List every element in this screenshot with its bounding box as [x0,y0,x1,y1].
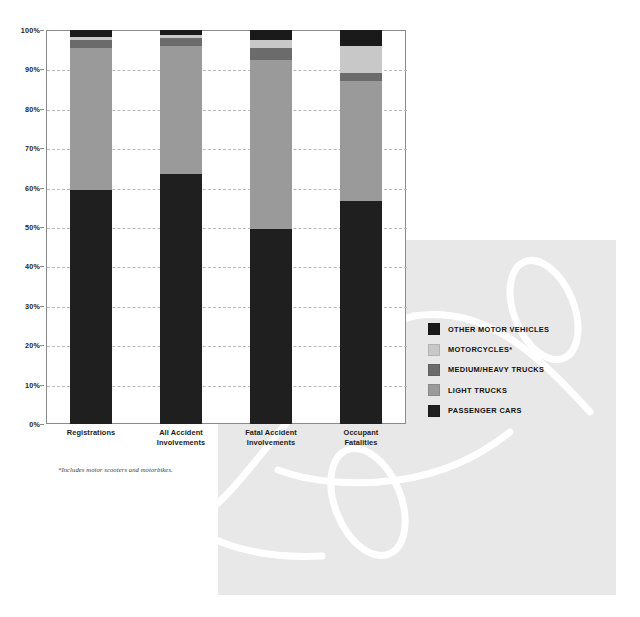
y-axis-tick-mark [40,69,44,70]
bar-group [46,30,406,424]
legend: OTHER MOTOR VEHICLESMOTORCYCLES*MEDIUM/H… [428,319,608,421]
bar-occupant-fatalities [340,30,382,424]
y-axis-tick-mark [40,188,44,189]
y-axis-tick-mark [40,148,44,149]
y-axis-tick-mark [40,227,44,228]
legend-swatch-icon [428,405,440,417]
legend-item-label: OTHER MOTOR VEHICLES [448,325,549,334]
bar-segment [250,48,292,60]
y-axis-tick-label: 100% [0,26,40,35]
bar-segment [340,30,382,46]
y-axis-tick-mark [40,385,44,386]
bar-fatal-accident-involvements [250,30,292,424]
legend-swatch-icon [428,384,440,396]
chart [46,30,406,424]
bar-segment [70,30,112,37]
bar-all-accident-involvements [160,30,202,424]
legend-item-label: PASSENGER CARS [448,406,522,415]
x-axis-labels: RegistrationsAll AccidentInvolvementsFat… [46,428,406,460]
bar-segment [340,201,382,424]
legend-item[interactable]: MOTORCYCLES* [428,339,608,359]
x-axis-label-line: Occupant [306,428,416,438]
legend-item-label: MOTORCYCLES* [448,345,512,354]
bar-segment [70,40,112,48]
bar-segment [250,60,292,229]
y-axis-tick-label: 0% [0,420,40,429]
y-axis-tick-label: 10% [0,380,40,389]
bar-segment [250,40,292,48]
bar-segment [250,30,292,40]
bar-segment [340,73,382,81]
x-axis-label: OccupantFatalities [306,428,416,447]
y-axis-tick-label: 40% [0,262,40,271]
y-axis-tick-mark [40,30,44,31]
bar-segment [160,174,202,424]
bar-segment [250,229,292,424]
y-axis-tick-mark [40,109,44,110]
bar-segment [340,46,382,74]
legend-item[interactable]: PASSENGER CARS [428,401,608,421]
legend-swatch-icon [428,323,440,335]
y-axis-tick-label: 60% [0,183,40,192]
bar-segment [160,38,202,46]
y-axis-tick-mark [40,424,44,425]
bar-segment [160,46,202,174]
legend-swatch-icon [428,364,440,376]
y-axis-tick-label: 30% [0,301,40,310]
legend-item-label: MEDIUM/HEAVY TRUCKS [448,365,544,374]
legend-item-label: LIGHT TRUCKS [448,386,507,395]
y-axis-tick-label: 20% [0,341,40,350]
x-axis-label-line: Fatalities [306,438,416,448]
y-axis: 0%10%20%30%40%50%60%70%80%90%100% [0,24,44,428]
footnote: *Includes motor scooters and motorbikes. [58,466,173,473]
legend-item[interactable]: MEDIUM/HEAVY TRUCKS [428,360,608,380]
bar-segment [70,190,112,424]
bar-segment [340,81,382,201]
legend-swatch-icon [428,344,440,356]
y-axis-tick-label: 70% [0,144,40,153]
y-axis-tick-label: 90% [0,65,40,74]
bar-segment [70,48,112,190]
legend-item[interactable]: LIGHT TRUCKS [428,380,608,400]
bar-registrations [70,30,112,424]
y-axis-tick-label: 50% [0,223,40,232]
y-axis-tick-mark [40,306,44,307]
legend-item[interactable]: OTHER MOTOR VEHICLES [428,319,608,339]
y-axis-tick-label: 80% [0,104,40,113]
y-axis-tick-mark [40,266,44,267]
y-axis-tick-mark [40,345,44,346]
